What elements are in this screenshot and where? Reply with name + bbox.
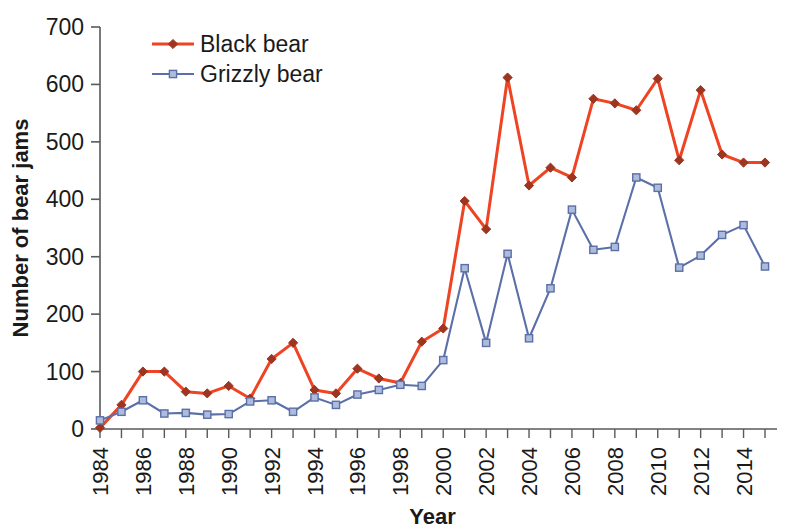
x-axis-tick-label: 1990 — [217, 447, 242, 496]
data-point — [504, 250, 511, 257]
data-point — [461, 265, 468, 272]
x-axis-tick-label: 2008 — [603, 447, 628, 496]
bear-jams-line-chart: 0100200300400500600700198419861988199019… — [0, 0, 788, 531]
data-point — [654, 184, 661, 191]
data-point — [118, 408, 125, 415]
data-point — [740, 222, 747, 229]
data-point — [161, 410, 168, 417]
legend-label: Grizzly bear — [200, 61, 323, 87]
data-point — [568, 206, 575, 213]
y-axis-tick-label: 600 — [46, 71, 84, 97]
series-black-bear — [95, 73, 769, 433]
data-point — [225, 410, 232, 417]
x-axis-tick-label: 1996 — [345, 447, 370, 496]
data-point — [633, 174, 640, 181]
data-point — [761, 263, 768, 270]
x-axis-tick-label: 1984 — [88, 447, 113, 496]
x-axis-tick-label: 2004 — [517, 447, 542, 496]
x-axis-tick-label: 2000 — [431, 447, 456, 496]
data-point — [483, 339, 490, 346]
data-point — [676, 264, 683, 271]
data-point — [289, 408, 296, 415]
y-axis-tick-label: 100 — [46, 359, 84, 385]
data-point — [717, 150, 726, 159]
x-axis-tick-label: 2006 — [560, 447, 585, 496]
data-point — [311, 394, 318, 401]
data-point — [547, 285, 554, 292]
x-axis-tick-label: 2002 — [474, 447, 499, 496]
data-point — [610, 99, 619, 108]
x-axis-tick-label: 1994 — [303, 447, 328, 496]
y-axis-title: Number of bear jams — [8, 119, 33, 338]
y-axis-tick-label: 400 — [46, 186, 84, 212]
data-point — [567, 173, 576, 182]
data-point — [718, 231, 725, 238]
data-point — [354, 391, 361, 398]
series-grizzly-bear — [96, 174, 768, 424]
data-point — [204, 411, 211, 418]
data-point — [374, 374, 383, 383]
data-point — [247, 398, 254, 405]
data-point — [418, 382, 425, 389]
series-line — [100, 78, 765, 428]
y-axis-tick-label: 0 — [71, 416, 84, 442]
legend-marker-diamond-icon — [168, 39, 177, 48]
x-axis-tick-label: 2014 — [732, 447, 757, 496]
data-point — [696, 86, 705, 95]
x-axis-tick-label: 1988 — [174, 447, 199, 496]
x-axis-tick-label: 1998 — [388, 447, 413, 496]
data-point — [375, 386, 382, 393]
data-point — [525, 335, 532, 342]
data-point — [590, 246, 597, 253]
series-line — [100, 177, 765, 420]
legend-label: Black bear — [200, 31, 309, 57]
data-point — [697, 252, 704, 259]
data-point — [589, 94, 598, 103]
x-axis-title: Year — [409, 504, 456, 529]
data-point — [203, 389, 212, 398]
data-point — [96, 417, 103, 424]
x-axis-tick-label: 2012 — [689, 447, 714, 496]
x-axis-tick-label: 2010 — [646, 447, 671, 496]
legend-marker-square-icon — [169, 70, 176, 77]
data-point — [503, 73, 512, 82]
chart-canvas: 0100200300400500600700198419861988199019… — [0, 0, 788, 531]
data-point — [397, 381, 404, 388]
data-point — [611, 243, 618, 250]
data-point — [139, 397, 146, 404]
data-point — [182, 409, 189, 416]
data-point — [332, 401, 339, 408]
legend-item-black-bear: Black bear — [152, 31, 309, 57]
x-axis-tick-label: 1992 — [260, 447, 285, 496]
y-axis-tick-label: 500 — [46, 129, 84, 155]
data-point — [440, 356, 447, 363]
legend-item-grizzly-bear: Grizzly bear — [152, 61, 323, 87]
data-point — [739, 158, 748, 167]
y-axis-tick-label: 200 — [46, 301, 84, 327]
x-axis-tick-label: 1986 — [131, 447, 156, 496]
data-point — [675, 156, 684, 165]
data-point — [268, 397, 275, 404]
y-axis-tick-label: 300 — [46, 244, 84, 270]
data-point — [760, 158, 769, 167]
y-axis-tick-label: 700 — [46, 14, 84, 40]
